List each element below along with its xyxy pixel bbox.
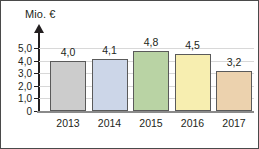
x-tick-label: 2014 xyxy=(88,117,132,129)
x-tick-label: 2013 xyxy=(46,117,90,129)
y-tick-label: 2,0 xyxy=(1,80,32,91)
bar xyxy=(216,71,252,111)
y-tick-label: 3,0 xyxy=(1,68,32,79)
bar-value-label: 4,0 xyxy=(50,46,86,58)
bar xyxy=(133,51,169,111)
bar-value-label: 4,1 xyxy=(92,44,128,56)
bar-chart-figure: Mio. € 01,02,03,04,05,0 4,04,14,84,53,2 … xyxy=(0,0,259,149)
y-tick-label: 5,0 xyxy=(1,43,32,54)
y-tick-mark xyxy=(34,61,39,62)
y-tick-mark xyxy=(34,73,39,74)
x-tick-label: 2015 xyxy=(129,117,173,129)
y-tick-label: 1,0 xyxy=(1,93,32,104)
bar xyxy=(175,54,211,111)
y-tick-mark xyxy=(34,86,39,87)
bar-value-label: 4,5 xyxy=(175,39,211,51)
y-axis-unit-label: Mio. € xyxy=(25,8,56,20)
y-axis-line xyxy=(38,31,40,112)
x-tick-label: 2016 xyxy=(171,117,215,129)
bar-value-label: 4,8 xyxy=(133,36,169,48)
bar-value-label: 3,2 xyxy=(216,56,252,68)
bar xyxy=(92,59,128,111)
y-tick-mark xyxy=(34,98,39,99)
x-axis-baseline xyxy=(37,111,254,113)
y-tick-mark xyxy=(34,48,39,49)
y-tick-label: 4,0 xyxy=(1,55,32,66)
bar xyxy=(50,61,86,111)
y-tick-label: 0 xyxy=(1,106,32,117)
x-tick-label: 2017 xyxy=(212,117,256,129)
